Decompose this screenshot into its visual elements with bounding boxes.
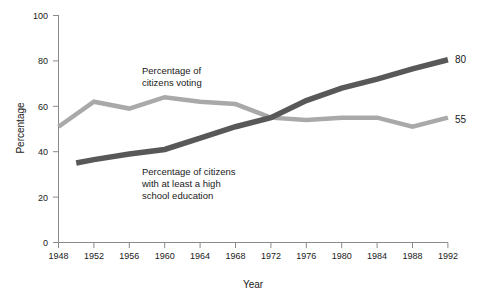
annotation-voting: Percentage of citizens voting: [142, 65, 202, 88]
x-tick-label: 1984: [367, 251, 387, 261]
x-tick-label: 1960: [155, 251, 175, 261]
x-tick-label: 1956: [119, 251, 139, 261]
line-chart: 100 80 60 40 20 0 1948 1952 1956: [0, 0, 478, 305]
x-axis-ticks: [59, 243, 448, 249]
y-tick-label: 20: [38, 193, 48, 203]
annotation-education: Percentage of citizens with at least a h…: [141, 166, 236, 201]
x-tick-label: 1980: [332, 251, 352, 261]
y-tick-label: 80: [38, 56, 48, 66]
end-label-education: 80: [455, 54, 467, 65]
y-axis-tick-labels: 100 80 60 40 20 0: [33, 11, 48, 248]
x-tick-label: 1972: [261, 251, 281, 261]
x-tick-label: 1968: [225, 251, 245, 261]
annotation-education-line2: with at least a high: [141, 178, 221, 189]
x-axis-tick-labels: 1948 1952 1956 1960 1964 1968 1972 1976 …: [48, 251, 457, 261]
x-tick-label: 1976: [296, 251, 316, 261]
x-tick-label: 1964: [190, 251, 210, 261]
end-label-voting: 55: [455, 114, 467, 125]
x-tick-label: 1992: [438, 251, 458, 261]
y-axis-ticks: [53, 16, 59, 243]
annotation-voting-line2: citizens voting: [142, 77, 202, 88]
x-tick-label: 1988: [402, 251, 422, 261]
chart-container: 100 80 60 40 20 0 1948 1952 1956: [0, 0, 478, 305]
y-axis-title: Percentage: [15, 102, 26, 154]
y-tick-label: 60: [38, 102, 48, 112]
series-line-education: [76, 60, 448, 163]
x-tick-label: 1948: [48, 251, 68, 261]
y-tick-label: 40: [38, 147, 48, 157]
annotation-education-line1: Percentage of citizens: [142, 166, 236, 177]
annotation-education-line3: school education: [142, 190, 213, 201]
y-tick-label: 100: [33, 11, 48, 21]
x-tick-label: 1952: [84, 251, 104, 261]
annotation-voting-line1: Percentage of: [142, 65, 202, 76]
y-tick-label: 0: [43, 238, 48, 248]
x-axis-title: Year: [243, 279, 264, 290]
